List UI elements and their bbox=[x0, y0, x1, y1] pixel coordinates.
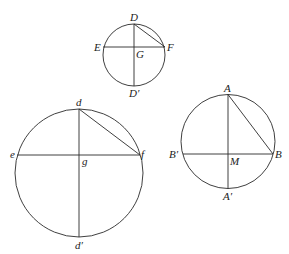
label-d: d bbox=[76, 96, 82, 108]
geometry-figure: D D′ E F G d d′ e f g A A′ B′ B bbox=[0, 0, 289, 254]
segment-AB bbox=[228, 95, 273, 155]
label-A-prime: A′ bbox=[222, 190, 233, 202]
label-B: B bbox=[275, 148, 282, 160]
diagram-canvas: D D′ E F G d d′ e f g A A′ B′ B bbox=[0, 0, 289, 254]
label-A: A bbox=[223, 82, 231, 94]
label-f: f bbox=[141, 148, 146, 160]
circle-group-DEFG: D D′ E F G bbox=[93, 11, 174, 99]
label-E: E bbox=[93, 41, 101, 53]
segment-DF bbox=[134, 24, 165, 47]
label-B-prime: B′ bbox=[169, 148, 179, 160]
label-M: M bbox=[229, 155, 240, 167]
label-d-prime: d′ bbox=[75, 239, 84, 251]
label-D-prime: D′ bbox=[128, 87, 140, 99]
label-G: G bbox=[136, 48, 144, 60]
label-e: e bbox=[10, 148, 15, 160]
label-F: F bbox=[166, 41, 174, 53]
label-g: g bbox=[82, 155, 88, 167]
segment-df bbox=[79, 109, 140, 155]
circle-group-defg: d d′ e f g bbox=[10, 96, 146, 251]
circle-group-ABM: A A′ B′ B M bbox=[169, 82, 282, 202]
label-D: D bbox=[129, 11, 138, 23]
